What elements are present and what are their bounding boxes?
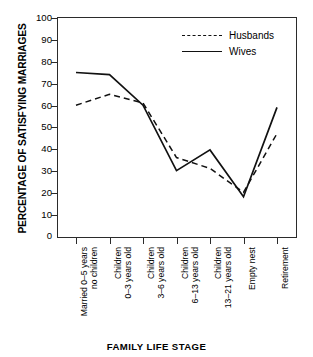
legend-label: Husbands xyxy=(229,28,274,43)
series-line-husbands xyxy=(76,94,277,192)
y-tick-label: 90 xyxy=(28,35,52,45)
legend-item-wives: Wives xyxy=(182,44,294,60)
x-tick-label-line1: Retirement xyxy=(280,247,290,289)
legend-swatch-dashed xyxy=(182,35,222,36)
x-tick-mark xyxy=(177,238,178,244)
y-tick-mark xyxy=(51,193,57,194)
x-tick-label-line2: 6–13 years old xyxy=(190,247,200,337)
chart-figure: PERCENTAGE OF SATISFYING MARRIAGES FAMIL… xyxy=(0,0,313,357)
y-tick-label: 80 xyxy=(28,57,52,67)
y-tick-label: 40 xyxy=(28,144,52,154)
chart-legend: HusbandsWives xyxy=(182,28,294,60)
x-tick-label-line1: Children xyxy=(180,247,190,279)
x-tick-label-line2: 13–21 years old xyxy=(224,247,234,337)
x-tick-label: Children6–13 years old xyxy=(181,247,200,337)
y-tick-mark xyxy=(51,62,57,63)
y-tick-label: 60 xyxy=(28,101,52,111)
x-tick-label-line2: 0–3 years old xyxy=(123,247,133,337)
y-tick-label: 100 xyxy=(28,14,52,24)
legend-swatch-solid xyxy=(182,51,222,52)
y-tick-mark xyxy=(51,18,57,19)
x-tick-label-line1: Children xyxy=(146,247,156,279)
y-tick-mark xyxy=(51,106,57,107)
y-axis-title: PERCENTAGE OF SATISFYING MARRIAGES xyxy=(17,11,28,247)
y-tick-label: 0 xyxy=(28,232,52,242)
x-tick-mark xyxy=(143,238,144,244)
x-tick-label: Children0–3 years old xyxy=(114,247,133,337)
y-tick-mark xyxy=(51,149,57,150)
x-tick-label-line1: Empty nest xyxy=(247,247,257,290)
x-tick-label-line1: Children xyxy=(213,247,223,279)
y-tick-label: 30 xyxy=(28,166,52,176)
legend-item-husbands: Husbands xyxy=(182,28,294,44)
y-tick-mark xyxy=(51,171,57,172)
x-tick-mark xyxy=(244,238,245,244)
x-tick-label-line2: no children xyxy=(90,247,100,337)
x-tick-label-line1: Children xyxy=(113,247,123,279)
chart-title xyxy=(0,0,313,9)
x-tick-label: Married 0–5 yearsno children xyxy=(80,247,99,337)
x-tick-label: Children13–21 years old xyxy=(214,247,233,337)
x-tick-label: Retirement xyxy=(281,247,291,337)
y-tick-mark xyxy=(51,40,57,41)
x-tick-mark xyxy=(110,238,111,244)
x-tick-label-line2: 3–6 years old xyxy=(157,247,167,337)
legend-label: Wives xyxy=(229,44,256,59)
x-tick-mark xyxy=(210,238,211,244)
y-tick-label: 20 xyxy=(28,188,52,198)
y-tick-mark xyxy=(51,127,57,128)
x-axis-title: FAMILY LIFE STAGE xyxy=(0,341,313,352)
x-tick-label-line1: Married 0–5 years xyxy=(79,247,89,316)
y-tick-mark xyxy=(51,215,57,216)
x-tick-mark xyxy=(76,238,77,244)
x-tick-mark xyxy=(277,238,278,244)
y-tick-label: 10 xyxy=(28,210,52,220)
x-tick-label: Empty nest xyxy=(248,247,258,337)
y-tick-label: 50 xyxy=(28,123,52,133)
y-tick-mark xyxy=(51,84,57,85)
x-tick-label: Children3–6 years old xyxy=(147,247,166,337)
series-line-wives xyxy=(76,73,277,197)
y-tick-label: 70 xyxy=(28,79,52,89)
